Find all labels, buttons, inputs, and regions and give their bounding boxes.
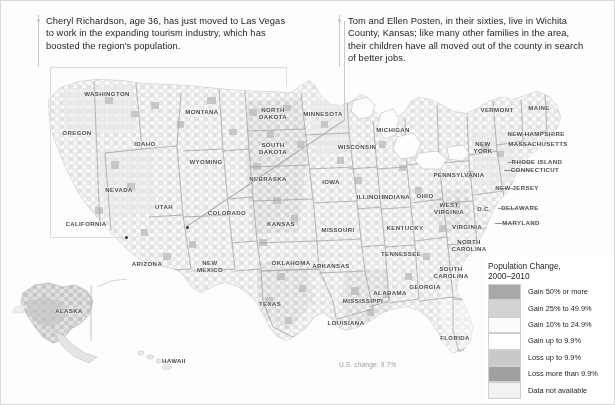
legend-swatch bbox=[488, 284, 521, 300]
callout-las-vegas-anchor-dot bbox=[125, 236, 128, 239]
state-label-alabama: ALABAMA bbox=[373, 289, 406, 296]
state-label-alaska: ALASKA bbox=[55, 307, 83, 314]
legend-swatch bbox=[488, 350, 521, 366]
map-legend: Population Change, 2000–2010 Gain 50% or… bbox=[484, 257, 615, 404]
state-label-oregon: OREGON bbox=[62, 129, 91, 136]
legend-label: Data not available bbox=[528, 386, 587, 395]
state-label-mississippi: MISSISSIPPI bbox=[343, 297, 383, 304]
legend-swatch bbox=[488, 366, 521, 382]
callout-las-vegas-text: Cheryl Richardson, age 36, has just move… bbox=[38, 15, 286, 52]
state-label-colorado: COLORADO bbox=[208, 209, 246, 216]
state-label-west-virginia: WESTVIRGINIA bbox=[434, 202, 464, 215]
callout-wichita-county-text: Tom and Ellen Posten, in their sixties, … bbox=[339, 15, 589, 64]
state-label-michigan: MICHIGAN bbox=[376, 126, 410, 133]
state-label-montana: MONTANA bbox=[185, 108, 218, 115]
state-label-hawaii: HAWAII bbox=[162, 357, 186, 364]
state-label-iowa: IOWA bbox=[322, 178, 340, 185]
callout-las-vegas-frame-top bbox=[50, 67, 286, 68]
state-label-pennsylvania: PENNSYLVANIA bbox=[433, 171, 484, 178]
state-label-vermont: VERMONT bbox=[480, 106, 513, 113]
legend-swatch bbox=[488, 333, 521, 349]
state-label-virginia: VIRGINIA bbox=[452, 223, 482, 230]
state-label-florida: FLORIDA bbox=[440, 334, 470, 341]
legend-label: Loss up to 9.9% bbox=[528, 353, 581, 362]
state-label-tennessee: TENNESSEE bbox=[381, 250, 421, 257]
legend-title: Population Change, 2000–2010 bbox=[488, 261, 612, 281]
state-label-new-york: NEWYORK bbox=[473, 141, 492, 154]
state-label-california: CALIFORNIA bbox=[65, 220, 106, 227]
state-label-nevada: NEVADA bbox=[105, 186, 132, 193]
state-label-ohio: OHIO bbox=[416, 192, 433, 199]
state-label-delaware: DELAWARE bbox=[501, 204, 538, 211]
state-label-kentucky: KENTUCKY bbox=[387, 224, 424, 231]
callout-las-vegas: Cheryl Richardson, age 36, has just move… bbox=[38, 15, 286, 52]
state-label-louisiana: LOUISIANA bbox=[328, 319, 365, 326]
state-label-maryland: MARYLAND bbox=[502, 219, 540, 226]
state-label-rhode-island: RHODE ISLAND bbox=[512, 158, 563, 165]
callout-las-vegas-frame-right bbox=[286, 67, 287, 87]
state-label-georgia: GEORGIA bbox=[409, 283, 440, 290]
callout-las-vegas-frame-left bbox=[50, 67, 51, 237]
population-change-map-figure: WASHINGTONOREGONIDAHOMONTANAWYOMINGNEVAD… bbox=[0, 0, 615, 405]
state-label-dc: D.C. bbox=[477, 205, 491, 212]
callout-wichita-anchor-dot bbox=[186, 226, 189, 229]
legend-swatch bbox=[488, 382, 521, 398]
state-label-north-carolina: NORTHCAROLINA bbox=[451, 239, 486, 252]
state-label-missouri: MISSOURI bbox=[321, 226, 354, 233]
legend-swatch bbox=[488, 317, 521, 333]
state-label-arizona: ARIZONA bbox=[132, 260, 162, 267]
state-label-kansas: KANSAS bbox=[267, 220, 295, 227]
state-label-indiana: INDIANA bbox=[382, 193, 410, 200]
state-label-massachusetts: MASSACHUSETTS bbox=[508, 140, 568, 147]
legend-label: Gain 50% or more bbox=[528, 287, 588, 296]
state-label-north-dakota: NORTHDAKOTA bbox=[259, 107, 287, 120]
state-label-new-hampshire: NEW HAMPSHIRE bbox=[507, 130, 564, 137]
state-label-arkansas: ARKANSAS bbox=[312, 262, 349, 269]
state-label-maine: MAINE bbox=[528, 104, 549, 111]
callout-las-vegas-frame-bottom bbox=[50, 237, 127, 238]
state-label-idaho: IDAHO bbox=[134, 140, 155, 147]
callout-wichita-county: Tom and Ellen Posten, in their sixties, … bbox=[339, 15, 589, 64]
state-label-utah: UTAH bbox=[155, 203, 173, 210]
state-label-new-mexico: NEWMEXICO bbox=[197, 260, 223, 273]
legend-label: Loss more than 9.9% bbox=[528, 369, 598, 378]
state-label-wyoming: WYOMING bbox=[189, 158, 222, 165]
state-label-washington: WASHINGTON bbox=[84, 90, 130, 97]
legend-swatch bbox=[488, 300, 521, 316]
state-label-oklahoma: OKLAHOMA bbox=[272, 259, 311, 266]
legend-label: Gain 10% to 24.9% bbox=[528, 320, 592, 329]
legend-label: Gain up to 9.9% bbox=[528, 336, 581, 345]
state-label-texas: TEXAS bbox=[259, 300, 281, 307]
us-change-note: U.S. change: 9.7% bbox=[339, 361, 396, 368]
state-label-south-dakota: SOUTHDAKOTA bbox=[259, 142, 287, 155]
state-label-minnesota: MINNESOTA bbox=[303, 110, 342, 117]
legend-label: Gain 25% to 49.9% bbox=[528, 304, 592, 313]
state-label-new-jersey: NEW JERSEY bbox=[495, 184, 539, 191]
state-label-wisconsin: WISCONSIN bbox=[338, 143, 377, 150]
state-label-connecticut: CONNECTICUT bbox=[511, 166, 559, 173]
state-label-south-carolina: SOUTHCAROLINA bbox=[433, 266, 468, 279]
